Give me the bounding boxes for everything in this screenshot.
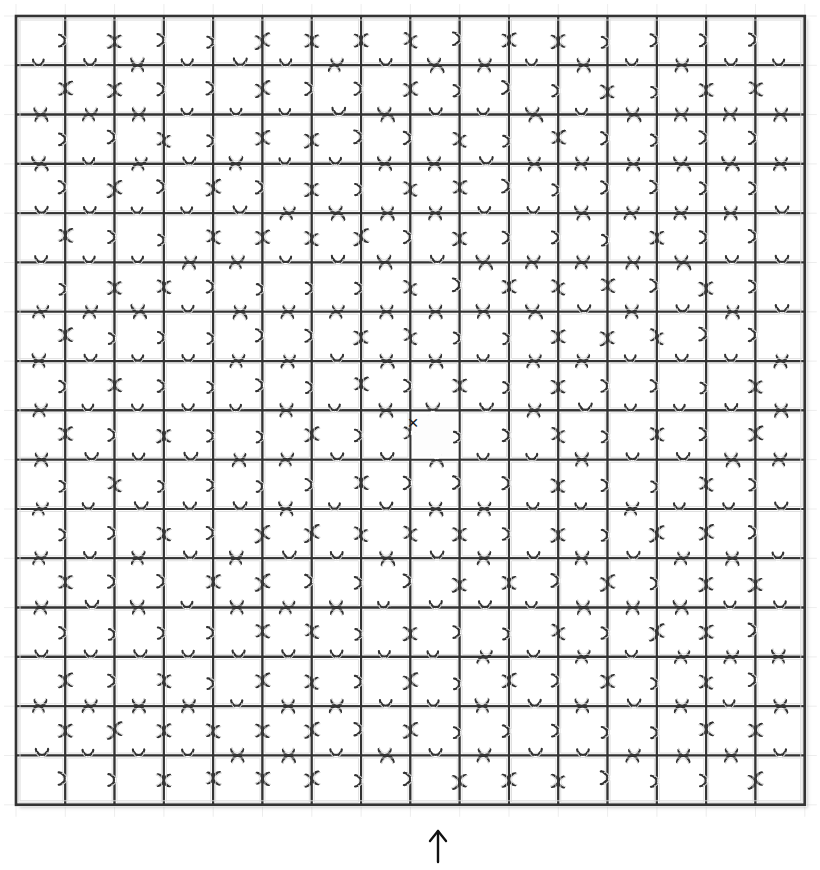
puzzle-piece[interactable] [312, 16, 361, 65]
puzzle-piece[interactable] [263, 706, 312, 755]
puzzle-piece[interactable] [361, 312, 410, 361]
missing-piece-x-marker: × [407, 412, 418, 433]
puzzle-piece[interactable] [651, 115, 712, 164]
puzzle-piece[interactable] [756, 410, 805, 459]
puzzle-piece[interactable] [16, 558, 65, 607]
puzzle-piece[interactable] [213, 756, 262, 805]
puzzle-piece[interactable] [651, 16, 713, 65]
puzzle-piece[interactable] [213, 558, 262, 607]
puzzle-piece[interactable] [312, 503, 361, 564]
puzzle-piece[interactable] [657, 608, 706, 657]
puzzle-piece[interactable] [257, 460, 318, 509]
jigsaw-puzzle-svg[interactable]: × [0, 0, 820, 870]
puzzle-piece[interactable] [16, 410, 65, 459]
puzzle-piece[interactable] [16, 312, 65, 361]
puzzle-piece[interactable] [460, 756, 509, 805]
puzzle-scene: × [0, 0, 820, 870]
puzzle-piece[interactable] [651, 355, 712, 417]
puzzle-piece[interactable] [700, 164, 761, 213]
puzzle-pieces-layer[interactable] [16, 16, 805, 805]
puzzle-piece[interactable] [263, 756, 312, 805]
puzzle-piece[interactable] [651, 756, 712, 805]
puzzle-piece[interactable] [509, 263, 558, 312]
puzzle-piece[interactable] [410, 164, 459, 213]
puzzle-piece[interactable] [756, 361, 805, 410]
missing-slot-layer[interactable] [410, 410, 466, 459]
puzzle-piece[interactable] [263, 109, 312, 170]
puzzle-piece[interactable] [158, 602, 219, 663]
puzzle-piece[interactable] [208, 312, 269, 361]
missing-piece-slot[interactable] [410, 410, 466, 459]
missing-piece-marker: × [407, 412, 418, 433]
